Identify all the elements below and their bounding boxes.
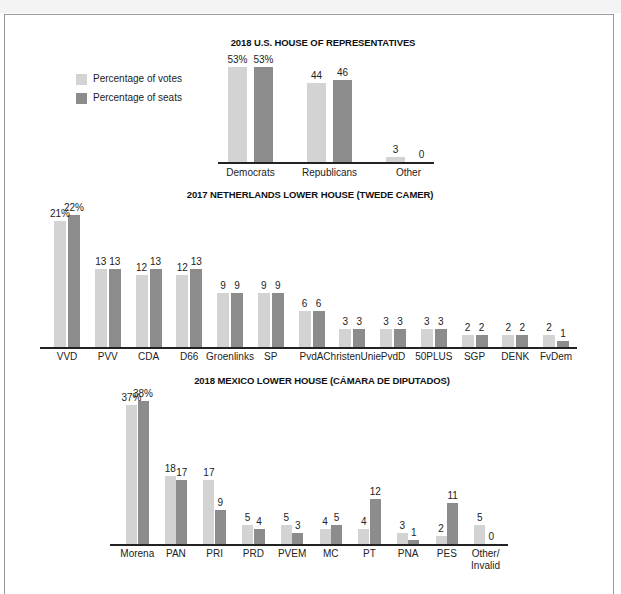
- bar-seats: [333, 80, 352, 162]
- bar-votes: [176, 275, 188, 347]
- value-label-votes: 6: [302, 298, 308, 309]
- bar-seats: [292, 533, 303, 544]
- bar-seats: [150, 269, 162, 347]
- category-label: 50PLUS: [415, 351, 452, 363]
- value-label-votes: 53%: [227, 54, 247, 65]
- category-label: CDA: [138, 351, 159, 363]
- value-label-seats: 3: [356, 316, 362, 327]
- value-label-votes: 17: [203, 467, 214, 478]
- value-label-seats: 13: [109, 256, 120, 267]
- bar-votes: [380, 329, 392, 347]
- value-label-votes: 5: [245, 512, 251, 523]
- bar-votes: [258, 293, 270, 347]
- category-label: PVEM: [278, 548, 306, 560]
- bar-seats: [557, 341, 569, 347]
- value-label-seats: 4: [256, 516, 262, 527]
- bar-votes: [217, 293, 229, 347]
- bar-votes: [358, 529, 369, 544]
- value-label-seats: 46: [337, 67, 348, 78]
- bar-votes: [228, 67, 247, 162]
- x-axis-line: [218, 162, 434, 164]
- value-label-seats: 0: [489, 531, 495, 542]
- value-label-votes: 13: [95, 256, 106, 267]
- bar-seats: [353, 329, 365, 347]
- category-label: PNA: [398, 548, 419, 560]
- bar-votes: [397, 533, 408, 544]
- value-label-votes: 3: [342, 316, 348, 327]
- x-axis-line: [110, 544, 508, 546]
- category-label: Other: [396, 167, 421, 179]
- bar-votes: [436, 536, 447, 544]
- bar-seats: [215, 510, 226, 544]
- x-axis-line: [40, 347, 577, 349]
- value-label-seats: 1: [560, 328, 566, 339]
- bar-seats: [370, 499, 381, 544]
- bar-seats: [313, 311, 325, 347]
- legend-label-votes: Percentage of votes: [93, 73, 182, 84]
- bar-seats: [231, 293, 243, 347]
- value-label-votes: 3: [383, 316, 389, 327]
- bar-votes: [502, 335, 514, 347]
- value-label-votes: 2: [546, 322, 552, 333]
- bar-votes: [386, 157, 405, 162]
- bar-seats: [435, 329, 447, 347]
- bar-votes: [54, 221, 66, 347]
- category-label: FvDem: [540, 351, 572, 363]
- value-label-seats: 17: [176, 467, 187, 478]
- value-label-votes: 18: [165, 463, 176, 474]
- bar-seats: [190, 269, 202, 347]
- value-label-seats: 9: [275, 280, 281, 291]
- bar-seats: [138, 401, 149, 544]
- category-label: Groenlinks: [206, 351, 254, 363]
- bar-votes: [474, 525, 485, 544]
- value-label-votes: 3: [424, 316, 430, 327]
- chart-title: 2018 U.S. HOUSE OF REPRESENTATIVES: [231, 37, 416, 48]
- value-label-seats: 11: [447, 490, 457, 501]
- value-label-votes: 12: [136, 262, 147, 273]
- category-label: PvdA: [300, 351, 324, 363]
- value-label-seats: 12: [370, 486, 381, 497]
- legend-swatch-seats: [76, 93, 87, 104]
- bar-seats: [68, 215, 80, 347]
- category-label: Democrats: [226, 167, 274, 179]
- bar-votes: [95, 269, 107, 347]
- legend-swatch-votes: [76, 74, 87, 85]
- value-label-seats: 0: [419, 149, 425, 160]
- value-label-seats: 9: [218, 497, 224, 508]
- bar-seats: [254, 529, 265, 544]
- value-label-votes: 4: [361, 516, 367, 527]
- bar-votes: [203, 480, 214, 544]
- bar-votes: [339, 329, 351, 347]
- value-label-seats: 13: [150, 256, 161, 267]
- value-label-seats: 6: [316, 298, 322, 309]
- value-label-seats: 53%: [253, 54, 273, 65]
- bar-votes: [165, 476, 176, 544]
- category-label: Republicans: [302, 167, 357, 179]
- value-label-votes: 3: [400, 520, 406, 531]
- bar-votes: [136, 275, 148, 347]
- value-label-votes: 44: [311, 70, 322, 81]
- category-label: PVV: [98, 351, 118, 363]
- value-label-seats: 3: [438, 316, 444, 327]
- bar-seats: [476, 335, 488, 347]
- value-label-seats: 5: [334, 512, 340, 523]
- bar-votes: [281, 525, 292, 544]
- category-label: MC: [323, 548, 339, 560]
- value-label-votes: 9: [261, 280, 267, 291]
- category-label: PT: [363, 548, 376, 560]
- bar-seats: [109, 269, 121, 347]
- category-label: ChristenUnie: [323, 351, 381, 363]
- category-label: PES: [437, 548, 457, 560]
- chart-title: 2017 NETHERLANDS LOWER HOUSE (TWEDE CAME…: [187, 189, 434, 200]
- chart-title: 2018 MEXICO LOWER HOUSE (CÁMARA DE DIPUT…: [194, 375, 450, 386]
- bar-votes: [307, 83, 326, 162]
- bar-votes: [126, 405, 137, 544]
- value-label-seats: 3: [295, 520, 301, 531]
- value-label-seats: 3: [397, 316, 403, 327]
- bar-seats: [447, 503, 458, 544]
- bar-seats: [331, 525, 342, 544]
- value-label-seats: 38%: [133, 388, 153, 399]
- top-band: [0, 0, 621, 13]
- bar-seats: [176, 480, 187, 544]
- value-label-seats: 1: [411, 527, 417, 538]
